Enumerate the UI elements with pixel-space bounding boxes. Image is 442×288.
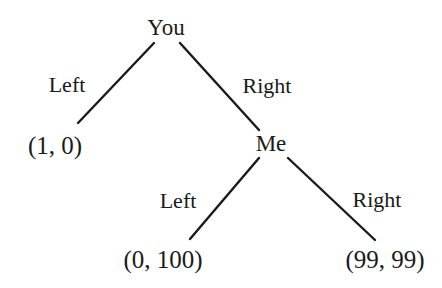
edge-me-left	[190, 158, 259, 239]
edge-label-me-right: Right	[353, 189, 402, 211]
edge-you-left	[78, 43, 154, 123]
node-me: Me	[256, 132, 287, 155]
edge-label-you-left: Left	[49, 74, 86, 96]
edge-label-you-right: Right	[243, 75, 292, 97]
payoff-you-left: (1, 0)	[28, 133, 82, 158]
payoff-me-left: (0, 100)	[123, 247, 202, 272]
payoff-me-right: (99, 99)	[345, 247, 424, 272]
edge-label-me-left: Left	[160, 190, 197, 212]
game-tree-figure: You Me Left Right Left Right (1, 0) (0, …	[0, 0, 442, 288]
node-you: You	[147, 16, 184, 39]
